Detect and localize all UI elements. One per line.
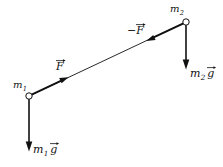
label-force-F: F [56,59,64,72]
label-force-F-vector-group: F [56,59,64,72]
physics-force-diagram: m1 m2 F − F m [0,0,223,167]
label-weight-m2-subscript: 2 [201,73,206,82]
force-minus-F-arrowhead [146,35,155,41]
force-minus-F-shaft [152,22,186,38]
mass-node-m1 [26,93,32,99]
weight-m1-arrowhead [26,142,33,152]
force-F-shaft [30,80,64,96]
label-weight-m1-gravity: g [50,143,57,156]
label-weight-m1-subscript: 1 [44,149,49,158]
weight-m1-vector [26,99,33,152]
label-force-minus-F-prefix: − [127,24,136,37]
weight-m2-vector [183,25,190,70]
label-mass-2-subscript: 2 [180,9,184,17]
label-force-F-base: F [56,60,64,73]
force-F-vector [30,77,69,96]
label-mass-1: m1 [13,80,27,93]
label-weight-m2-vector-group: g [207,66,214,79]
label-mass-2-base: m [170,3,179,14]
label-weight-m1: m1 g [33,142,57,157]
label-weight-m2-gravity: g [207,67,214,80]
label-mass-1-subscript: 1 [23,85,27,93]
mass-node-m2 [183,19,189,25]
label-force-minus-F-base: F [136,24,144,37]
label-weight-m2-base: m [190,67,200,80]
label-weight-m1-base: m [33,143,43,156]
force-minus-F-vector [146,22,185,41]
label-weight-m2: m2 g [190,66,214,81]
label-force-minus-F-vector-group: F [136,23,144,36]
label-mass-2: m2 [170,4,184,17]
label-mass-1-base: m [13,79,22,90]
weight-m2-arrowhead [183,60,190,70]
label-force-minus-F: − F [127,23,144,36]
force-F-arrowhead [59,77,68,83]
label-weight-m1-vector-group: g [50,142,57,155]
